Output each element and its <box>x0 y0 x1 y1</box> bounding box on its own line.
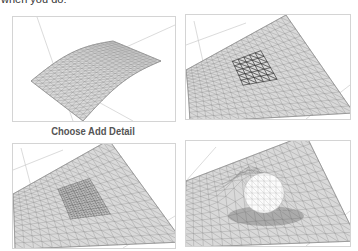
caption-choose-add-detail: Choose Add Detail <box>20 125 166 137</box>
mesh-surface <box>186 15 350 119</box>
axis-line <box>13 150 63 170</box>
terrain-mesh-detail-image <box>13 144 175 248</box>
panel-initial-terrain <box>12 16 176 122</box>
terrain-mesh-selection-image <box>186 15 350 119</box>
panel-add-detail <box>12 143 176 249</box>
panel-selected-region <box>185 14 351 120</box>
terrain-mesh-bump-image <box>186 141 350 246</box>
panel-bump <box>185 140 351 247</box>
terrain-mesh-image <box>13 17 175 121</box>
lead-text: when you do: <box>1 0 66 5</box>
